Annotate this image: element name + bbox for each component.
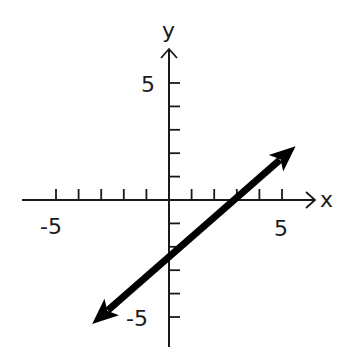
y-tick-label-neg5: -5 <box>126 306 148 331</box>
line-segment <box>108 160 280 310</box>
y-axis-label: y <box>162 18 175 43</box>
x-axis-label: x <box>320 187 333 212</box>
y-tick-label-5: 5 <box>141 72 155 97</box>
data-line <box>92 146 295 324</box>
x-tick-label-5: 5 <box>274 216 288 241</box>
x-tick-label-neg5: -5 <box>40 214 62 239</box>
coordinate-plane: x y -5 5 5 -5 <box>0 0 353 347</box>
